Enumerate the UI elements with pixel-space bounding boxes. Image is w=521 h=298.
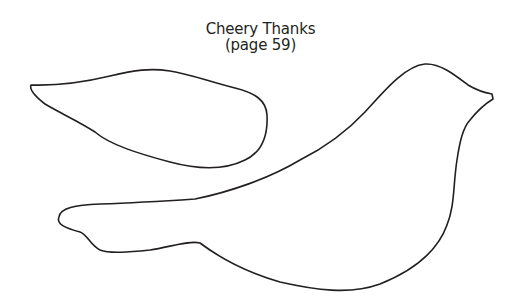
template-artwork [0, 0, 521, 298]
bird-body-outline [58, 64, 493, 290]
wing-outline [31, 70, 267, 168]
